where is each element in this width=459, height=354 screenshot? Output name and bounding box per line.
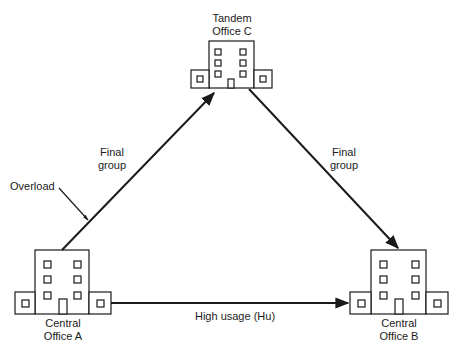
building-icon-central-office-a: [15, 250, 111, 314]
label-line: group: [322, 159, 366, 172]
label-central-office-a: Central Office A: [33, 317, 93, 343]
label-line: Office A: [33, 330, 93, 343]
label-overload: Overload: [10, 180, 60, 193]
label-final-group-c-to-b: Final group: [322, 146, 366, 172]
label-line: Central: [369, 317, 429, 330]
label-central-office-b: Central Office B: [369, 317, 429, 343]
label-line: Office C: [202, 25, 262, 38]
label-line: Central: [33, 317, 93, 330]
building-icon-central-office-b: [350, 250, 448, 314]
label-tandem-office-c: Tandem Office C: [202, 12, 262, 38]
label-line: Tandem: [202, 12, 262, 25]
label-line: Final: [90, 146, 134, 159]
trunking-diagram: [0, 0, 459, 354]
label-line: group: [90, 159, 134, 172]
label-line: Final: [322, 146, 366, 159]
overload-pointer-arrow-icon: [59, 188, 88, 220]
edge-final-group-a-to-c: [62, 93, 214, 250]
building-icon-tandem-office-c: [191, 41, 272, 88]
label-final-group-a-to-c: Final group: [90, 146, 134, 172]
label-line: Office B: [369, 330, 429, 343]
label-high-usage: High usage (Hu): [180, 310, 290, 323]
